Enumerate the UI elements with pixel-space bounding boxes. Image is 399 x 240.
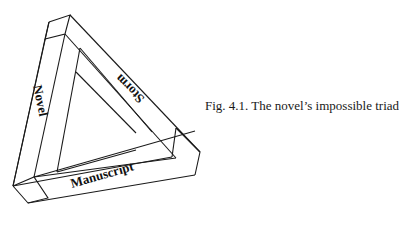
right-corner-vertical	[172, 128, 176, 157]
label-storm: Storm	[112, 71, 147, 106]
inner-left-edge	[57, 48, 80, 172]
figure-caption: Fig. 4.1. The novel’s impossible triad	[205, 98, 399, 114]
right-bar-inner-edge	[65, 34, 176, 158]
label-manuscript: Manuscript	[69, 158, 136, 191]
label-novel: Novel	[30, 84, 51, 119]
